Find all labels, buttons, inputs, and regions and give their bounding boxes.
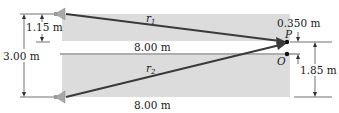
shaded-region-bottom [62,55,290,97]
dim-0-350-arrow-down [296,37,300,42]
dim-1-85-arrow-up [313,42,317,47]
dim-1-85-arrow-down [313,92,317,97]
label-p: P [284,28,293,40]
dim-3-00-arrow-down [22,92,26,97]
label-8-00-bottom: 8.00 m [134,99,171,111]
label-0-350: 0.350 m [277,17,320,29]
label-3-00: 3.00 m [3,50,40,62]
dim-3-00-arrow-up [22,14,26,19]
label-o: O [277,55,286,67]
label-1-85: 1.85 m [300,64,337,76]
dim-1-15-arrow-down [40,37,44,42]
point-p [285,40,289,44]
dim-1-15-arrow-up [40,14,44,19]
label-1-15: 1.15 m [26,21,63,33]
dim-0-350-arrow-up [296,54,300,59]
speaker-bottom-icon [54,91,65,103]
speaker-interference-diagram: 3.00 m 1.15 m 8.00 m 8.00 m r1 r2 P O 0.… [0,0,339,113]
label-8-00-top: 8.00 m [134,41,171,53]
speaker-top-icon [54,8,65,20]
